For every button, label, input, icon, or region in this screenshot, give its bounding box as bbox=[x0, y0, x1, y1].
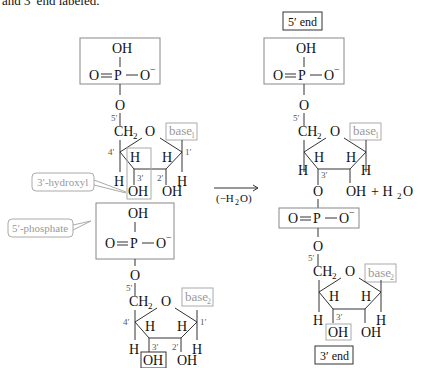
svg-text:H: H bbox=[346, 150, 356, 165]
svg-text:OH: OH bbox=[346, 184, 366, 199]
svg-text:5′: 5′ bbox=[111, 113, 118, 123]
ring-oxygen: O bbox=[145, 124, 155, 139]
svg-text:CH: CH bbox=[313, 264, 332, 279]
svg-text:CH: CH bbox=[298, 124, 317, 139]
svg-text:2′: 2′ bbox=[172, 342, 179, 352]
svg-text:O: O bbox=[330, 124, 340, 139]
right-sugar-1: 5′ CH 2 O base 1 H H H H 3′ O OH bbox=[293, 113, 381, 199]
phosphodiester-linkage: O P O − O bbox=[279, 199, 359, 266]
svg-text:OH: OH bbox=[177, 353, 197, 368]
svg-text:2: 2 bbox=[148, 301, 153, 311]
svg-text:−: − bbox=[150, 64, 156, 75]
svg-text:O: O bbox=[324, 68, 334, 83]
phosphorus: P bbox=[114, 68, 122, 83]
svg-text:O: O bbox=[345, 264, 355, 279]
svg-text:O: O bbox=[130, 268, 140, 283]
svg-text:2: 2 bbox=[207, 297, 211, 306]
svg-text:4′: 4′ bbox=[123, 317, 130, 327]
svg-text:OH: OH bbox=[143, 353, 163, 368]
svg-text:O: O bbox=[403, 184, 413, 199]
svg-text:base: base bbox=[353, 123, 376, 138]
svg-text:2: 2 bbox=[235, 198, 239, 207]
svg-text:H: H bbox=[130, 150, 140, 165]
callout-5-phosphate: 5′-phosphate bbox=[8, 219, 91, 237]
svg-text:1: 1 bbox=[191, 131, 195, 140]
svg-text:H: H bbox=[313, 313, 323, 328]
svg-text:−: − bbox=[334, 64, 340, 75]
svg-text:H: H bbox=[314, 150, 324, 165]
svg-text:5′ end: 5′ end bbox=[288, 15, 317, 29]
hydroxyl-oh: OH bbox=[112, 41, 132, 56]
svg-text:3′: 3′ bbox=[336, 312, 343, 322]
svg-text:5′: 5′ bbox=[293, 113, 300, 123]
svg-text:O: O bbox=[288, 211, 298, 226]
svg-text:H: H bbox=[361, 289, 371, 304]
left-phosphate-1: OH O P O − O bbox=[80, 38, 160, 126]
base-label: base bbox=[169, 123, 192, 138]
reaction-arrow: (−H 2 O) bbox=[214, 185, 258, 207]
svg-text:1′: 1′ bbox=[185, 147, 192, 157]
svg-text:CH: CH bbox=[114, 124, 133, 139]
svg-text:5′: 5′ bbox=[308, 253, 315, 263]
svg-text:OH: OH bbox=[162, 184, 182, 199]
svg-text:1: 1 bbox=[375, 131, 379, 140]
svg-text:O: O bbox=[161, 294, 171, 309]
callout-3-hydroxyl: 3′-hydroxyl bbox=[32, 173, 126, 193]
svg-text:3′: 3′ bbox=[152, 342, 159, 352]
svg-text:5′: 5′ bbox=[126, 283, 133, 293]
svg-text:base: base bbox=[368, 265, 391, 280]
svg-text:O: O bbox=[115, 98, 125, 113]
svg-text:O: O bbox=[105, 236, 115, 251]
water-product: + H 2 O bbox=[371, 184, 413, 201]
svg-text:4′: 4′ bbox=[108, 147, 115, 157]
svg-text:H: H bbox=[298, 163, 308, 178]
svg-text:O: O bbox=[313, 239, 323, 254]
dehydration-label: (−H bbox=[216, 192, 234, 205]
svg-text:2: 2 bbox=[390, 273, 394, 282]
svg-text:O: O bbox=[156, 236, 166, 251]
svg-text:−: − bbox=[349, 207, 355, 218]
svg-text:H: H bbox=[177, 319, 187, 334]
svg-text:3′-hydroxyl: 3′-hydroxyl bbox=[37, 176, 88, 188]
left-phosphate-2: OH O P O − O bbox=[96, 203, 174, 296]
right-phosphate-1: OH O P O − O bbox=[264, 38, 344, 126]
dinucleotide-condensation-diagram: and 3′ end labeled. OH O P O − O 5′ CH 2… bbox=[0, 0, 421, 368]
svg-text:2: 2 bbox=[133, 131, 138, 141]
svg-text:O: O bbox=[273, 68, 283, 83]
svg-text:2′: 2′ bbox=[157, 173, 164, 183]
svg-text:H: H bbox=[129, 342, 139, 357]
caption-fragment: and 3′ end labeled. bbox=[2, 0, 99, 8]
svg-text:3′: 3′ bbox=[321, 170, 328, 180]
svg-text:O: O bbox=[140, 68, 150, 83]
left-sugar-1: 5′ CH 2 O base 1 4′ 1′ H H H H 3′ 2′ OH … bbox=[108, 113, 197, 199]
svg-text:P: P bbox=[298, 68, 306, 83]
left-sugar-2: 5′ CH 2 O base 2 4′ 1′ H H H H 3′ 2′ OH … bbox=[123, 283, 213, 368]
svg-text:O): O) bbox=[240, 192, 252, 205]
svg-text:OH: OH bbox=[128, 206, 148, 221]
svg-text:2: 2 bbox=[397, 191, 402, 201]
svg-text:P: P bbox=[313, 211, 321, 226]
svg-text:OH: OH bbox=[328, 325, 348, 340]
svg-text:OH: OH bbox=[296, 41, 316, 56]
svg-text:CH: CH bbox=[129, 294, 148, 309]
svg-text:O: O bbox=[89, 68, 99, 83]
3-prime-hydroxyl: OH bbox=[128, 184, 148, 199]
svg-text:base: base bbox=[185, 289, 208, 304]
svg-text:O: O bbox=[299, 98, 309, 113]
svg-text:H: H bbox=[162, 150, 172, 165]
svg-text:−: − bbox=[166, 232, 172, 243]
three-prime-end-label: 3′ end bbox=[315, 346, 353, 364]
svg-text:5′-phosphate: 5′-phosphate bbox=[12, 222, 68, 234]
five-prime-end-label: 5′ end bbox=[283, 12, 322, 30]
svg-text:+ H: + H bbox=[371, 184, 393, 199]
svg-text:3′ end: 3′ end bbox=[320, 349, 349, 363]
svg-text:O: O bbox=[313, 184, 323, 199]
svg-text:P: P bbox=[130, 236, 138, 251]
right-sugar-2: 5′ CH 2 O base 2 H H H H 3′ OH OH bbox=[308, 253, 396, 340]
svg-text:OH: OH bbox=[361, 325, 381, 340]
svg-text:1′: 1′ bbox=[200, 317, 207, 327]
svg-text:H: H bbox=[145, 319, 155, 334]
svg-text:H: H bbox=[361, 163, 371, 178]
svg-text:2: 2 bbox=[317, 131, 322, 141]
svg-text:O: O bbox=[339, 211, 349, 226]
